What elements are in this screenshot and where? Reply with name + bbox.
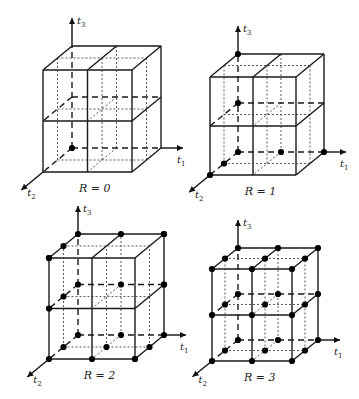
lattice-node xyxy=(262,255,268,261)
lattice-node xyxy=(161,332,167,338)
panel-r0: t3t1t2R = 0 xyxy=(21,15,185,201)
lattice-node xyxy=(302,255,308,261)
caption-r1: R = 1 xyxy=(244,185,277,198)
lattice-node xyxy=(75,281,81,287)
lattice-node xyxy=(209,312,215,318)
lattice-node xyxy=(249,266,255,272)
lattice-node xyxy=(275,337,281,343)
lattice-node xyxy=(275,291,281,297)
t1-arrowhead-icon xyxy=(334,337,340,343)
lattice-node xyxy=(235,291,241,297)
t1-arrowhead-icon xyxy=(180,332,186,338)
t3-axis-label-subscript: 3 xyxy=(87,209,91,217)
t3-axis-label-subscript: 3 xyxy=(247,223,251,231)
t3-arrowhead-icon xyxy=(235,26,241,32)
lattice-node xyxy=(221,160,227,166)
lattice-node xyxy=(235,337,241,343)
lattice-node xyxy=(249,312,255,318)
lattice-node xyxy=(302,347,308,353)
lattice-node xyxy=(118,332,124,338)
caption-r2: R = 2 xyxy=(83,369,116,382)
lattice-node xyxy=(222,301,228,307)
t1-arrowhead-icon xyxy=(340,149,346,155)
t1-arrowhead-icon xyxy=(177,145,183,151)
t2-axis-label-subscript: 2 xyxy=(37,380,41,388)
lattice-node xyxy=(222,255,228,261)
lattice-node xyxy=(262,301,268,307)
lattice-node xyxy=(278,149,284,155)
caption-r0: R = 0 xyxy=(78,182,111,195)
t2-axis-label-subscript: 2 xyxy=(199,195,203,203)
lattice-node xyxy=(146,344,152,350)
lattice-node xyxy=(235,51,241,57)
lattice-node xyxy=(46,356,52,362)
t3-axis-label-subscript: 3 xyxy=(247,29,251,37)
lattice-node xyxy=(103,344,109,350)
lattice-node xyxy=(289,312,295,318)
lattice-node xyxy=(118,281,124,287)
t1-axis-label-subscript: 1 xyxy=(181,160,185,168)
lattice-node xyxy=(235,149,241,155)
lattice-cubes-diagram: t3t1t2R = 0t3t1t2R = 1t3t1t2R = 2t3t1t2R… xyxy=(0,0,359,399)
lattice-node xyxy=(249,358,255,364)
figure-canvas: t3t1t2R = 0t3t1t2R = 1t3t1t2R = 2t3t1t2R… xyxy=(0,0,359,399)
lattice-node xyxy=(235,245,241,251)
lattice-node xyxy=(262,347,268,353)
lattice-node xyxy=(161,281,167,287)
lattice-node xyxy=(289,358,295,364)
lattice-node xyxy=(235,100,241,106)
lattice-node xyxy=(60,344,66,350)
t2-axis-label-subscript: 2 xyxy=(31,193,35,201)
t3-axis-label-subscript: 3 xyxy=(81,21,85,29)
panel-r1: t3t1t2R = 1 xyxy=(189,23,348,203)
lattice-node xyxy=(60,293,66,299)
lattice-node xyxy=(69,145,75,151)
lattice-node xyxy=(209,266,215,272)
lattice-node xyxy=(315,337,321,343)
t1-axis-label-subscript: 1 xyxy=(338,352,342,360)
lattice-node xyxy=(60,243,66,249)
lattice-node xyxy=(321,149,327,155)
lattice-node xyxy=(289,266,295,272)
t1-axis-label-subscript: 1 xyxy=(344,164,348,172)
lattice-node xyxy=(46,255,52,261)
lattice-node xyxy=(75,231,81,237)
lattice-node xyxy=(161,231,167,237)
lattice-node xyxy=(315,245,321,251)
lattice-node xyxy=(209,358,215,364)
lattice-node xyxy=(302,301,308,307)
t2-axis-label-subscript: 2 xyxy=(203,380,207,388)
lattice-node xyxy=(315,291,321,297)
t3-arrowhead-icon xyxy=(235,220,241,226)
lattice-node xyxy=(207,172,213,178)
lattice-node xyxy=(75,332,81,338)
lattice-node xyxy=(222,347,228,353)
t1-axis-label-subscript: 1 xyxy=(184,347,188,355)
lattice-node xyxy=(275,245,281,251)
caption-r3: R = 3 xyxy=(243,371,276,384)
lattice-node xyxy=(118,231,124,237)
panel-r3: t3t1t2R = 3 xyxy=(193,217,343,388)
t3-arrowhead-icon xyxy=(75,206,81,212)
t3-arrowhead-icon xyxy=(69,18,75,24)
lattice-node xyxy=(132,356,138,362)
panel-r2: t3t1t2R = 2 xyxy=(27,203,188,388)
lattice-node xyxy=(46,305,52,311)
lattice-node xyxy=(89,356,95,362)
